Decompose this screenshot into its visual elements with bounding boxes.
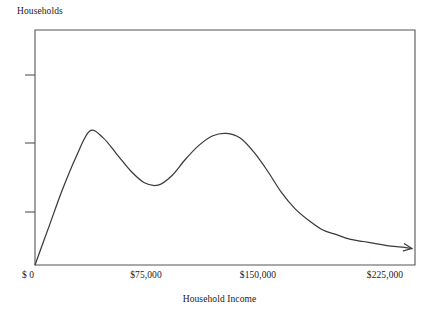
households-density-curve	[35, 130, 412, 265]
x-tick-label-0: $ 0	[22, 270, 34, 280]
x-tick-label-225000: $225,000	[367, 270, 403, 280]
distribution-curve-group	[35, 130, 412, 265]
plot-frame	[35, 30, 415, 265]
x-axis-title: Household Income	[0, 294, 439, 304]
plot-frame-box	[35, 30, 415, 265]
x-tick-label-150000: $150,000	[240, 270, 276, 280]
y-axis-ticks	[25, 75, 35, 212]
y-axis-title: Households	[17, 6, 63, 16]
x-tick-label-75000: $75,000	[130, 270, 162, 280]
chart-page: Households $ 0 $75,000 $150,000 $225,000…	[0, 0, 439, 315]
household-income-distribution-chart	[0, 0, 439, 315]
